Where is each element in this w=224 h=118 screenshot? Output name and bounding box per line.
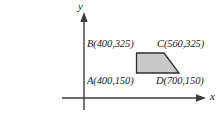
vertex-label-d: D(700,150) bbox=[156, 75, 204, 86]
y-axis-label: y bbox=[78, 0, 83, 12]
up-arrow-icon bbox=[80, 12, 87, 22]
coordinate-plane-figure: B(400,325) C(560,325) A(400,150) D(700,1… bbox=[0, 0, 224, 118]
axes-and-shape-graphic bbox=[0, 0, 224, 118]
vertex-label-a: A(400,150) bbox=[87, 75, 134, 86]
right-arrow-icon bbox=[196, 94, 206, 101]
x-axis-label: x bbox=[210, 90, 215, 102]
vertex-label-b: B(400,325) bbox=[87, 38, 134, 49]
trapezoid-shape bbox=[137, 53, 180, 73]
vertex-label-c: C(560,325) bbox=[157, 38, 204, 49]
